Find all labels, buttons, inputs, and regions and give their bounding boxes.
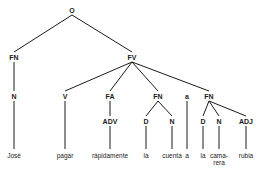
node-fn-subject: FN: [9, 54, 18, 61]
node-o: O: [69, 7, 74, 14]
node-a: a: [185, 93, 189, 100]
leaf-camarera: cama- rera: [210, 153, 228, 166]
leaf-cuenta: cuenta: [162, 153, 182, 160]
node-v: V: [63, 93, 68, 100]
leaf-pagar: pagar: [57, 153, 74, 160]
node-fa: FA: [106, 93, 115, 100]
leaf-la-1: la: [143, 153, 148, 160]
leaf-a: a: [185, 153, 189, 160]
leaf-rubia: rubia: [239, 153, 253, 160]
node-fv: FV: [128, 54, 137, 61]
node-adj: ADJ: [239, 118, 253, 125]
node-fn-object: FN: [153, 93, 162, 100]
node-d-indirect: D: [200, 118, 205, 125]
node-adv: ADV: [103, 118, 118, 125]
node-n-indirect: N: [216, 118, 221, 125]
node-n-object: N: [169, 118, 174, 125]
leaf-camarera-line2: rera: [210, 159, 228, 166]
node-n-subject: N: [11, 93, 16, 100]
leaf-jose: José: [7, 153, 21, 160]
tree-edges: [0, 0, 264, 172]
node-d-object: D: [143, 118, 148, 125]
leaf-la-2: la: [200, 153, 205, 160]
leaf-rapidamente: rápidamente: [92, 153, 128, 160]
syntax-tree-diagram: O FN FV N V FA FN a FN ADV D N D N ADJ J…: [0, 0, 264, 172]
node-fn-indirect: FN: [204, 93, 213, 100]
